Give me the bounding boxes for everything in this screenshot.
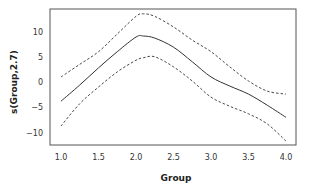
x-axis-ticks: 1.01.52.02.53.03.54.0 <box>55 153 293 162</box>
y-tick-label: −10 <box>26 129 43 138</box>
lower-confidence-line <box>61 56 286 141</box>
x-tick-label: 2.5 <box>167 153 180 162</box>
x-tick-label: 1.0 <box>55 153 68 162</box>
y-axis-ticks: −10−50510 <box>26 28 43 138</box>
y-tick-label: 5 <box>38 53 43 62</box>
x-tick-label: 1.5 <box>92 153 105 162</box>
y-tick-label: 10 <box>33 28 43 37</box>
y-axis-label: s(Group,2.7) <box>9 50 19 114</box>
upper-confidence-line <box>61 14 286 94</box>
series-layer <box>61 14 286 141</box>
plot-frame <box>50 9 296 145</box>
x-tick-label: 3.0 <box>205 153 218 162</box>
gam-smooth-plot: 1.01.52.02.53.03.54.0 −10−50510 Group s(… <box>0 0 312 188</box>
x-axis-label: Group <box>161 173 192 183</box>
y-tick-label: −5 <box>31 103 43 112</box>
y-tick-label: 0 <box>38 78 43 87</box>
x-tick-label: 3.5 <box>242 153 255 162</box>
x-tick-label: 2.0 <box>130 153 143 162</box>
x-tick-label: 4.0 <box>280 153 293 162</box>
smooth-estimate-line <box>61 36 286 118</box>
